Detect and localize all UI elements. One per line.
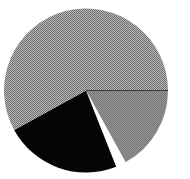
pie-slices	[4, 9, 168, 173]
pie-chart-svg	[0, 0, 190, 179]
pie-chart	[0, 0, 190, 179]
